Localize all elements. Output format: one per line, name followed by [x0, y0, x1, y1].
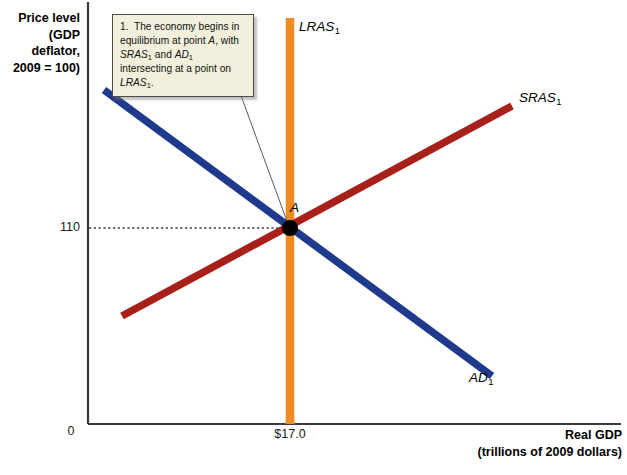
callout-text-part3: and — [152, 49, 175, 60]
callout-sub-ad: 1 — [189, 53, 193, 62]
economics-ad-as-figure: Price level (GDP deflator, 2009 = 100) R… — [0, 0, 627, 475]
lras1-curve-label: LRAS1 — [299, 19, 340, 34]
equilibrium-point-a-dot — [282, 220, 298, 236]
callout-italic-sras: SRAS — [120, 49, 148, 60]
sras1-label-main: SRAS — [519, 90, 556, 105]
sras1-curve — [122, 106, 512, 316]
chart-canvas — [0, 0, 627, 475]
ad1-label-main: AD — [469, 370, 488, 385]
lras1-label-main: LRAS — [299, 19, 334, 34]
callout-text: 1. The economy begins in equilibrium at … — [120, 20, 246, 90]
lras1-label-subscript: 1 — [334, 25, 340, 36]
origin-tick-label: 0 — [62, 424, 80, 438]
callout-text-part5: . — [151, 77, 154, 88]
ad1-curve — [104, 90, 492, 376]
equilibrium-point-a-label: A — [290, 200, 299, 215]
callout-text-part4: intersecting at a point on — [120, 63, 231, 74]
callout-number: 1. — [120, 21, 129, 32]
ad1-curve-label: AD1 — [469, 370, 494, 385]
y-axis-title: Price level (GDP deflator, 2009 = 100) — [0, 10, 80, 76]
callout-text-part2: , with — [215, 35, 239, 46]
callout-italic-ad: AD — [175, 49, 189, 60]
ad1-label-subscript: 1 — [488, 376, 494, 387]
callout-sub-lras: 1 — [147, 81, 151, 90]
sras1-curve-label: SRAS1 — [519, 90, 562, 105]
callout-italic-lras: LRAS — [120, 77, 147, 88]
sras1-label-subscript: 1 — [556, 96, 562, 107]
y-tick-label-110: 110 — [46, 220, 80, 234]
callout-box-1: 1. The economy begins in equilibrium at … — [112, 14, 254, 97]
x-tick-label-17: $17.0 — [255, 427, 325, 441]
callout-sub-sras: 1 — [148, 53, 152, 62]
x-axis-title: Real GDP (trillions of 2009 dollars) — [430, 427, 622, 460]
